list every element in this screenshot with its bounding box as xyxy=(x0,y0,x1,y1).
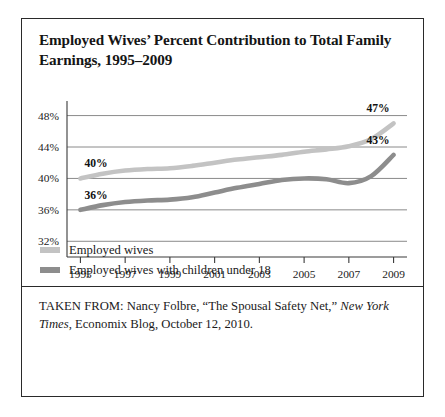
legend-item-employed-wives-with-children: Employed wives with children under 18 xyxy=(40,261,400,279)
data-point-label: 40% xyxy=(84,157,107,170)
legend-swatch-employed-wives xyxy=(40,247,60,253)
y-axis-tick-label: 40% xyxy=(38,172,59,184)
legend-label-employed-wives: Employed wives xyxy=(69,243,153,258)
y-axis-tick-label: 44% xyxy=(38,141,59,153)
data-point-label: 36% xyxy=(84,189,107,202)
legend-item-employed-wives: Employed wives xyxy=(40,241,400,259)
source-divider xyxy=(22,286,423,287)
series-line-employed-wives-with-children xyxy=(80,155,393,210)
data-point-label: 47% xyxy=(366,102,389,115)
series-line-employed-wives xyxy=(80,123,393,178)
source-suffix: , Economix Blog, October 12, 2010. xyxy=(69,317,253,331)
legend-label-employed-wives-with-children: Employed wives with children under 18 xyxy=(69,263,271,278)
chart-legend: Employed wives Employed wives with child… xyxy=(40,241,400,281)
source-note: TAKEN FROM: Nancy Folbre, “The Spousal S… xyxy=(39,297,407,333)
y-axis-tick-label: 36% xyxy=(38,204,59,216)
chart-title: Employed Wives’ Percent Contribution to … xyxy=(39,30,411,70)
y-axis-tick-label: 48% xyxy=(38,110,59,122)
legend-swatch-employed-wives-with-children xyxy=(40,267,60,273)
data-point-label: 43% xyxy=(366,134,389,147)
figure-container: Employed Wives’ Percent Contribution to … xyxy=(21,18,424,397)
source-prefix: TAKEN FROM: Nancy Folbre, “The Spousal S… xyxy=(39,299,340,313)
